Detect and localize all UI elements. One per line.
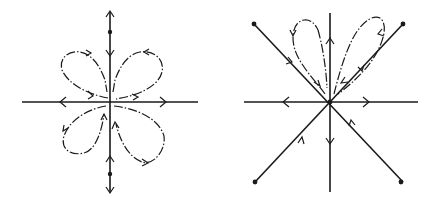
phase-portraits-figure xyxy=(0,0,437,204)
left-petal-lower-right xyxy=(114,106,164,163)
left-petal-lower-right-arrow-icon xyxy=(142,159,148,166)
right-petal-ur-arrow2-icon xyxy=(341,77,348,83)
right-diagonal-arrow-lr-icon xyxy=(349,120,355,126)
left-petal-lower-left xyxy=(63,106,106,154)
right-phase-portrait xyxy=(244,13,418,192)
left-petal-lower-right-arrow2-icon xyxy=(112,122,119,129)
left-node-top xyxy=(108,30,112,34)
left-petal-upper-left-arrow-icon xyxy=(86,50,91,56)
left-node-bottom xyxy=(108,172,112,176)
right-node-lower-left xyxy=(253,180,258,185)
right-node-upper-right xyxy=(401,22,406,27)
left-petal-upper-left-arrow2-icon xyxy=(88,91,93,99)
right-node-upper-left xyxy=(252,22,257,27)
left-petal-upper-left xyxy=(61,52,108,98)
left-phase-portrait xyxy=(22,11,198,193)
right-origin xyxy=(328,100,333,105)
right-petal-ur-arrow-icon xyxy=(378,29,384,36)
left-petal-upper-right-arrow2-icon xyxy=(132,94,138,100)
right-diagonal-arrow-ll-icon xyxy=(298,137,304,144)
left-petal-upper-right xyxy=(113,52,162,99)
left-petal-lower-left-arrow2-icon xyxy=(101,114,107,120)
right-petal-upper-left-inner xyxy=(318,30,327,88)
right-node-lower-right xyxy=(399,180,404,185)
right-petal-ul-arrow-icon xyxy=(290,30,296,36)
